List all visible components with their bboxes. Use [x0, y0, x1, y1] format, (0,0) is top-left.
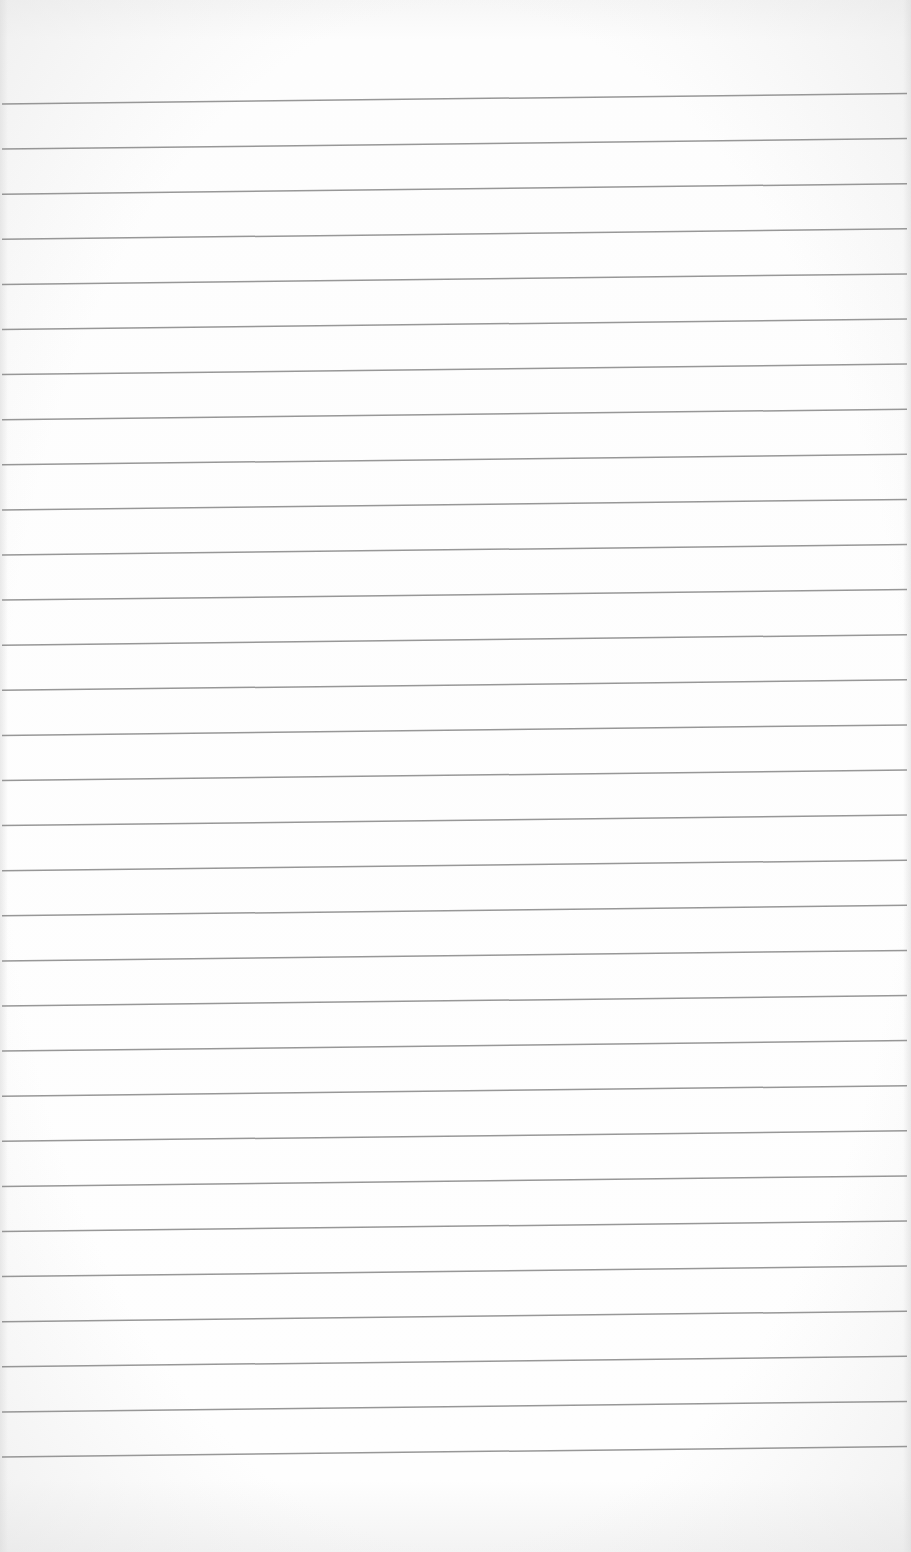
ruled-line: [2, 590, 907, 601]
ruled-line: [2, 725, 907, 736]
ruled-line: [2, 184, 907, 195]
ruled-line: [2, 996, 907, 1007]
ruled-line: [2, 319, 907, 330]
ruled-line: [2, 815, 907, 826]
ruled-line: [2, 680, 907, 691]
ruled-line: [2, 364, 907, 375]
ruled-line: [2, 1176, 907, 1187]
ruled-line: [2, 1086, 907, 1097]
ruled-line: [2, 545, 907, 556]
ruled-line: [2, 1131, 907, 1142]
ruled-line: [2, 905, 907, 916]
ruled-line: [2, 1041, 907, 1052]
lined-paper-sheet: [0, 0, 911, 1552]
ruled-line: [2, 139, 907, 150]
ruled-line: [2, 770, 907, 781]
ruled-line: [2, 229, 907, 240]
ruled-line: [2, 409, 907, 420]
ruled-line: [2, 1311, 907, 1322]
ruled-line: [2, 454, 907, 465]
ruled-line: [2, 1221, 907, 1232]
ruled-lines: [0, 0, 911, 1552]
ruled-line: [2, 1266, 907, 1277]
ruled-line: [2, 274, 907, 285]
ruled-line: [2, 950, 907, 961]
ruled-line: [2, 1356, 907, 1367]
ruled-line: [2, 860, 907, 871]
ruled-line: [2, 635, 907, 646]
ruled-line: [2, 94, 907, 105]
ruled-line: [2, 499, 907, 510]
ruled-line: [2, 1447, 907, 1458]
ruled-line: [2, 1401, 907, 1412]
